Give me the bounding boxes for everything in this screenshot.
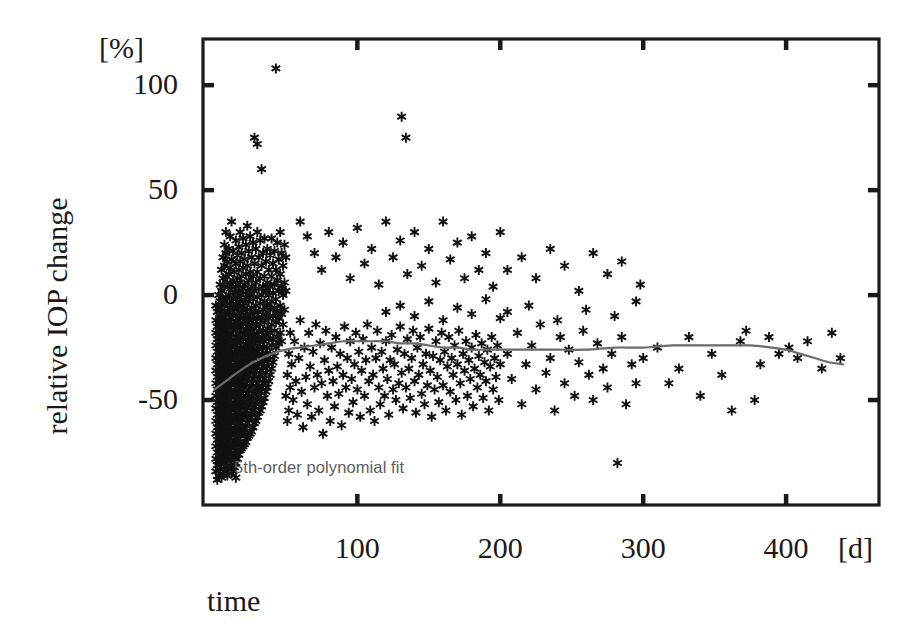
x-tick-label: 200 bbox=[445, 533, 555, 563]
data-markers bbox=[212, 63, 845, 484]
x-tick-label: 300 bbox=[588, 533, 698, 563]
y-tick-label: -50 bbox=[68, 384, 178, 414]
x-tick-label: 400 bbox=[731, 533, 841, 563]
x-tick-label: 100 bbox=[302, 533, 412, 563]
y-axis-unit-label: [%] bbox=[99, 33, 144, 63]
y-tick-label: 50 bbox=[68, 174, 178, 204]
x-axis-unit-label: [d] bbox=[838, 533, 873, 563]
y-tick-label: 100 bbox=[68, 69, 178, 99]
x-axis-title: time bbox=[207, 586, 260, 616]
scatter-plot-figure: [%] [d] relative IOP change time 100500-… bbox=[0, 0, 919, 635]
y-axis-title: relative IOP change bbox=[42, 166, 72, 466]
plot-frame bbox=[203, 39, 879, 505]
y-tick-label: 0 bbox=[68, 279, 178, 309]
axis-ticks bbox=[203, 39, 879, 505]
fit-annotation-label: 5th-order polynomial fit bbox=[234, 458, 404, 477]
